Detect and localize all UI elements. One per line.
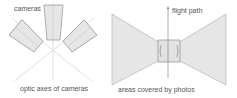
coverage-center-square bbox=[158, 40, 180, 62]
coverage-right-wing bbox=[178, 14, 226, 85]
optic-axes-caption: optic axes of cameras bbox=[20, 85, 88, 92]
coverage-left-wing bbox=[112, 14, 160, 85]
arrow-up-icon bbox=[167, 6, 169, 9]
camera-center-icon bbox=[44, 5, 63, 40]
cameras-label: cameras bbox=[14, 5, 41, 12]
diagram-canvas bbox=[0, 0, 237, 98]
areas-covered-caption: areas covered by photos bbox=[118, 86, 195, 93]
camera-right-icon bbox=[61, 20, 97, 55]
flight-path-label: flight path bbox=[172, 7, 202, 14]
camera-left-icon bbox=[9, 20, 45, 55]
